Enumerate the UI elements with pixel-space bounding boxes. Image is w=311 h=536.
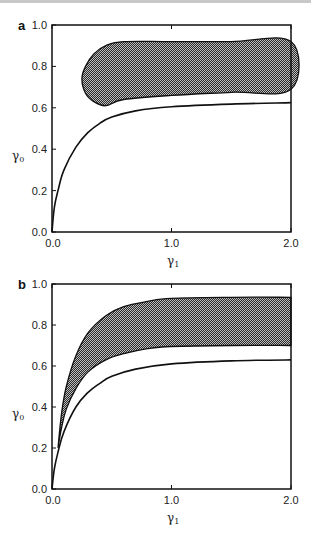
x-tick-label: 1.0 — [164, 237, 179, 249]
x-axis-label-a: γ1 — [167, 254, 179, 269]
y-tick-label: 0.8 — [32, 319, 47, 331]
y-tick-label: 0.2 — [32, 442, 47, 454]
lower-curve-a — [52, 103, 291, 232]
y-axis-label-b: γ0 — [12, 407, 24, 422]
y-tick-label: 0.8 — [32, 60, 47, 72]
y-tick-label: 0.6 — [32, 360, 47, 372]
x-tick-label: 1.0 — [164, 494, 179, 506]
x-tick-label: 2.0 — [283, 237, 298, 249]
y-tick-label: 1.0 — [32, 278, 47, 290]
y-tick-label: 0.4 — [32, 143, 47, 155]
y-tick-label: 1.0 — [32, 19, 47, 31]
panel-label-b: b — [18, 277, 26, 292]
panel-b: b 0.00.20.40.60.81.00.01.02.0 γ0 γ1 — [12, 277, 299, 526]
x-tick-label: 0.0 — [45, 494, 60, 506]
y-tick-label: 0.6 — [32, 102, 47, 114]
panel-a: a 0.00.20.40.60.81.00.01.02.0 γ0 γ1 — [12, 18, 299, 269]
y-tick-label: 0.4 — [32, 401, 47, 413]
y-tick-label: 0.2 — [32, 185, 47, 197]
shaded-band-b — [58, 297, 291, 448]
figure: a 0.00.20.40.60.81.00.01.02.0 γ0 γ1 b 0.… — [0, 0, 311, 536]
x-tick-label: 2.0 — [283, 494, 298, 506]
x-axis-label-b: γ1 — [167, 511, 179, 526]
lower-curve-b — [52, 360, 291, 489]
panel-label-a: a — [18, 18, 26, 33]
x-tick-label: 0.0 — [45, 237, 60, 249]
y-axis-label-a: γ0 — [12, 149, 24, 164]
shaded-region-a — [82, 38, 299, 106]
